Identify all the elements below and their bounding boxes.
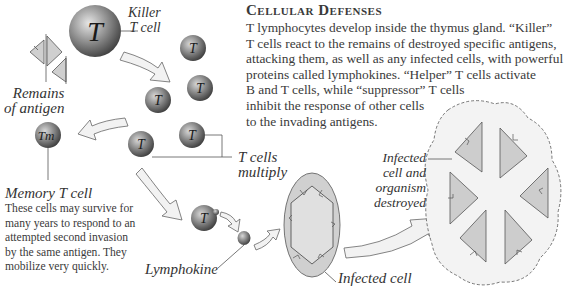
t-cell-icon: T [180,35,206,61]
t-cell-icon: T [128,131,154,157]
description-text: T lymphocytes develop inside the thymus … [246,20,563,129]
arrow-icon [136,168,182,220]
lymphokine-icon [238,231,251,245]
t-cell-icon: T [145,87,171,113]
page-title: Cellular Defenses [246,2,382,19]
lymphokine-label: Lymphokine [145,262,218,277]
svg-text:T: T [196,81,205,96]
svg-text:T: T [200,211,209,226]
t-cells-multiply-label: T cells multiply [238,150,287,180]
svg-text:T: T [154,93,163,108]
t-cell-icon: T [179,122,205,148]
memory-t-cell-title: Memory T cell [5,185,92,202]
svg-text:T: T [188,128,197,143]
t-cell-icon: T [187,75,213,101]
antigen-remains-icon [30,34,66,84]
arrow-icon [344,218,438,258]
t-cell-icon: T [191,205,217,231]
svg-text:T: T [87,16,105,47]
memory-t-cell-description: These cells may survive for many years t… [5,202,135,275]
svg-text:T: T [189,41,198,56]
killer-t-cell-icon: T [69,5,121,57]
memory-t-cell-icon: Tm [35,122,61,148]
arrow-icon [120,52,170,82]
antigen-remains-label: Remains of antigen [4,86,64,116]
destroyed-label: Infected cell and organism destroyed [356,150,426,210]
arrow-icon [254,229,280,250]
arrow-icon [78,118,128,140]
svg-text:T: T [137,137,146,152]
arrow-icon [220,212,240,232]
infected-cell-label: Infected cell [338,271,412,286]
svg-text:Tm: Tm [38,128,55,143]
killer-t-cell-label: Killer T cell [128,5,161,35]
infected-cell-icon [284,173,340,277]
